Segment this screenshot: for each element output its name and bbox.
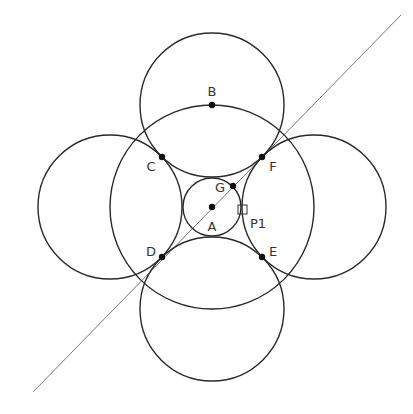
label-f: F <box>269 159 276 174</box>
label-b: B <box>208 84 217 99</box>
label-p1: P1 <box>250 216 266 231</box>
label-g: G <box>215 180 225 195</box>
label-a: A <box>208 219 217 234</box>
label-e: E <box>269 244 277 259</box>
point-c-dot <box>159 154 165 160</box>
geometry-diagram: ABCDEFG P1 <box>0 0 413 414</box>
label-c: C <box>146 159 155 174</box>
point-e-dot <box>259 254 265 260</box>
point-g-dot <box>230 183 236 189</box>
point-b-dot <box>209 102 215 108</box>
diagonal-line <box>33 15 401 392</box>
point-f-dot <box>259 154 265 160</box>
point-a-dot <box>209 204 215 210</box>
point-d-dot <box>159 254 165 260</box>
label-d: D <box>146 244 156 259</box>
labels-group: ABCDEFG <box>146 84 277 259</box>
